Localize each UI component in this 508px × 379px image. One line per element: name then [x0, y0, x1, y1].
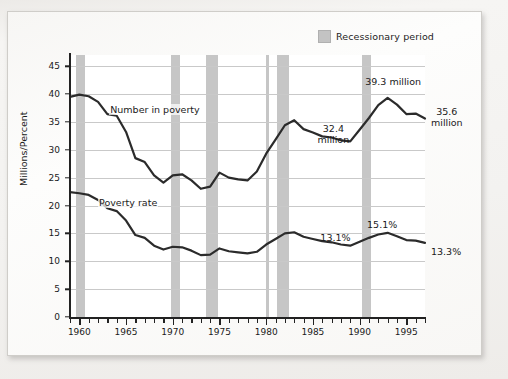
- y-tick-mark: [65, 261, 70, 262]
- y-tick-mark: [65, 233, 70, 234]
- x-tick-mark: [107, 319, 108, 323]
- x-tick-mark: [210, 319, 211, 323]
- y-tick-mark: [65, 121, 70, 122]
- x-tick-mark: [416, 319, 417, 323]
- x-tick-mark: [219, 319, 220, 325]
- x-tick-mark: [229, 319, 230, 323]
- x-tick-label: 1970: [161, 327, 184, 337]
- x-tick-mark: [322, 319, 323, 323]
- x-tick-mark: [350, 319, 351, 323]
- x-tick-mark: [79, 319, 80, 325]
- series-label-poverty-rate: Poverty rate: [98, 197, 158, 208]
- x-tick-label: 1960: [68, 327, 91, 337]
- x-tick-mark: [70, 319, 71, 323]
- legend-label: Recessionary period: [336, 31, 434, 42]
- x-tick-mark: [406, 319, 407, 325]
- x-tick-mark: [248, 319, 249, 323]
- x-tick-label: 1990: [348, 327, 371, 337]
- y-tick-mark: [65, 288, 70, 289]
- y-tick-mark: [65, 177, 70, 178]
- x-tick-label: 1985: [301, 327, 324, 337]
- y-tick-label: 0: [38, 312, 60, 322]
- x-tick-mark: [117, 319, 118, 323]
- x-tick-mark: [135, 319, 136, 323]
- x-tick-label: 1965: [115, 327, 138, 337]
- x-tick-mark: [98, 319, 99, 323]
- x-tick-mark: [285, 319, 286, 323]
- y-tick-mark: [65, 65, 70, 66]
- poverty-chart-figure: Recessionary period 051015202530354045 1…: [0, 0, 508, 379]
- y-tick-label: 30: [38, 145, 60, 155]
- y-tick-label: 20: [38, 201, 60, 211]
- y-axis-title: Millions/Percent: [18, 112, 29, 186]
- annotation-39-3-million: 39.3 million: [365, 77, 421, 88]
- x-tick-mark: [173, 319, 174, 325]
- y-tick-mark: [65, 205, 70, 206]
- y-tick-label: 15: [38, 228, 60, 238]
- x-tick-label: 1975: [208, 327, 231, 337]
- x-tick-mark: [266, 319, 267, 325]
- y-tick-label: 10: [38, 256, 60, 266]
- x-tick-mark: [313, 319, 314, 325]
- x-tick-label: 1980: [255, 327, 278, 337]
- x-tick-mark: [388, 319, 389, 323]
- x-tick-mark: [201, 319, 202, 323]
- x-tick-mark: [332, 319, 333, 323]
- x-tick-mark: [126, 319, 127, 325]
- x-tick-mark: [145, 319, 146, 323]
- y-tick-label: 5: [38, 284, 60, 294]
- x-tick-mark: [276, 319, 277, 323]
- x-tick-mark: [182, 319, 183, 323]
- annotation-35-6-million: 35.6million: [431, 107, 463, 129]
- x-tick-mark: [163, 319, 164, 323]
- series-label-number-in-poverty: Number in poverty: [109, 104, 200, 115]
- chart-legend: Recessionary period: [318, 30, 434, 43]
- y-tick-mark: [65, 316, 70, 317]
- x-tick-label: 1995: [395, 327, 418, 337]
- y-tick-label: 40: [38, 89, 60, 99]
- x-tick-mark: [360, 319, 361, 325]
- x-tick-mark: [425, 319, 426, 323]
- x-tick-mark: [154, 319, 155, 323]
- x-tick-mark: [89, 319, 90, 323]
- x-tick-mark: [341, 319, 342, 323]
- y-tick-label: 45: [38, 61, 60, 71]
- x-tick-mark: [294, 319, 295, 323]
- y-tick-label: 35: [38, 117, 60, 127]
- x-tick-mark: [257, 319, 258, 323]
- series-layer: [70, 55, 425, 317]
- recession-swatch-icon: [318, 30, 331, 43]
- x-tick-mark: [191, 319, 192, 323]
- annotation-13-1-percent: 13.1%: [320, 233, 350, 244]
- annotation-13-3-percent: 13.3%: [431, 247, 461, 258]
- x-tick-mark: [238, 319, 239, 323]
- y-tick-mark: [65, 93, 70, 94]
- x-tick-mark: [369, 319, 370, 323]
- annotation-32-4-million: 32.4million: [318, 124, 350, 146]
- y-tick-label: 25: [38, 173, 60, 183]
- x-tick-mark: [304, 319, 305, 323]
- x-tick-mark: [378, 319, 379, 323]
- y-tick-mark: [65, 149, 70, 150]
- annotation-15-1-percent: 15.1%: [367, 220, 397, 231]
- plot-area: [70, 55, 425, 317]
- x-tick-mark: [397, 319, 398, 323]
